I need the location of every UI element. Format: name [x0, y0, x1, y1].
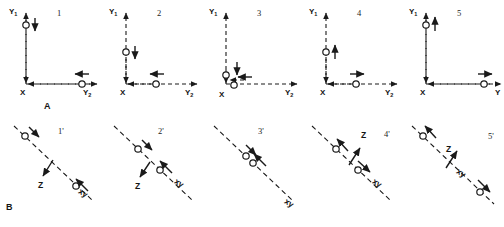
marker-lower [157, 167, 163, 173]
figure-canvas: Y1 Y X Y2 1 Y1 X Y2 2 [0, 0, 504, 227]
panel-number-b2: 2' [158, 126, 164, 136]
marker-upper [135, 146, 141, 152]
axis-label-y1: Y1 [9, 7, 17, 16]
label-z: Z [38, 180, 43, 190]
axis-label-y2: Y2 [185, 88, 193, 97]
panel-number-a1: 1 [57, 8, 61, 18]
marker-vertical [423, 22, 429, 28]
axis-label-y1-sub: 1 [14, 11, 17, 17]
panel-b-3: xy 3' [200, 118, 300, 227]
panel-b-1: Z xy 1' [0, 118, 100, 227]
motion-arrow-z [349, 148, 360, 165]
marker-lower [477, 189, 483, 195]
marker-lower [250, 160, 256, 166]
panel-b-2: Z xy 2' [100, 118, 200, 227]
panel-number-a3: 3 [257, 8, 261, 18]
panel-number-a2: 2 [157, 8, 161, 18]
axis-label-y2: Y2 [285, 88, 293, 97]
marker-lower [355, 167, 361, 173]
marker-horizontal [153, 81, 159, 87]
marker-upper [420, 133, 426, 139]
marker-horizontal [353, 81, 359, 87]
marker-upper [333, 146, 339, 152]
motion-arrow-z [43, 160, 53, 176]
panel-number-b4: 4' [384, 129, 390, 139]
panel-a-3: Y1 X Y2 3 [200, 0, 300, 110]
panel-number-a4: 4 [357, 8, 361, 18]
marker-vertical [23, 22, 29, 28]
marker-horizontal [231, 82, 237, 88]
panel-a-1: Y1 Y X Y2 1 [0, 0, 100, 110]
axis-label-x: X [420, 88, 425, 97]
marker-horizontal [481, 81, 487, 87]
axis-label-x: X [20, 88, 25, 97]
axis-label-x: X [120, 88, 125, 97]
axis-label-y2: Y2 [385, 88, 393, 97]
axis-label-x: X [320, 88, 325, 97]
panel-number-b3: 3' [258, 126, 264, 136]
axis-label-y2: Y2 [83, 88, 91, 97]
marker-vertical [123, 49, 129, 55]
panel-b-3-graphic [200, 118, 300, 227]
axis-label-x: X [219, 90, 224, 99]
panel-b-1-graphic [0, 118, 100, 227]
axis-label-y1: Y1 [109, 7, 117, 16]
panel-b-4: Z xy 4' [298, 118, 400, 227]
panel-number-b5: 5' [488, 131, 494, 141]
panel-a-5: Y1 X Y 5 [400, 0, 504, 110]
axis-label-y2: Y [495, 88, 500, 97]
row-label-a: A [44, 101, 51, 111]
motion-arrow-z [140, 162, 150, 177]
axis-label-y1: Y1 [209, 7, 217, 16]
marker-upper [243, 153, 249, 159]
marker-upper [22, 133, 28, 139]
motion-arrow-upper [142, 140, 152, 150]
marker-horizontal [79, 81, 85, 87]
marker-vertical [223, 72, 229, 78]
axis-label-y2-sub: 2 [88, 92, 91, 98]
panel-b-5: Z xy 5' [398, 118, 504, 227]
label-z: Z [446, 144, 451, 154]
marker-lower [73, 183, 79, 189]
panel-number-a5: 5 [457, 8, 461, 18]
axis-label-y1: Y1 [409, 7, 417, 16]
panel-number-b1: 1' [58, 126, 64, 136]
row-label-b: B [6, 202, 13, 212]
label-z: Z [135, 181, 140, 191]
label-z: Z [361, 130, 366, 140]
panel-a-2: Y1 X Y2 2 [100, 0, 200, 110]
panel-a-4: Y1 X Y2 4 [300, 0, 400, 110]
motion-arrow-upper [29, 127, 39, 137]
panel-b-2-graphic [100, 118, 200, 227]
marker-vertical [323, 49, 329, 55]
axis-label-y1: Y1 [309, 7, 317, 16]
